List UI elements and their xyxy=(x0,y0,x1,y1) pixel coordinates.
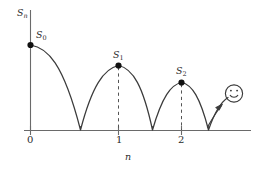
data-point-s2 xyxy=(178,79,184,85)
x-axis-label: n xyxy=(125,152,131,162)
x-tick-label-2: 2 xyxy=(178,135,184,145)
point-label-s2-sub: 2 xyxy=(183,70,187,78)
smiley-eye-left xyxy=(230,90,232,92)
point-label-s0-sub: 0 xyxy=(43,34,47,42)
point-label-s1: S1 xyxy=(113,50,124,60)
smiley-mouth xyxy=(230,95,238,97)
series-curve xyxy=(31,45,229,130)
y-axis-label-sub: n xyxy=(24,12,28,20)
smiley-face xyxy=(225,85,242,102)
smiley-eye-right xyxy=(236,90,238,92)
point-label-s1-base: S xyxy=(113,49,120,60)
smiley-face-outline xyxy=(225,85,242,102)
point-label-s2-base: S xyxy=(176,65,183,76)
data-point-s1 xyxy=(115,62,121,68)
plot-canvas xyxy=(0,0,257,172)
point-label-s0-base: S xyxy=(36,29,43,40)
y-axis-label-base: S xyxy=(17,7,24,18)
y-axis-label: Sn xyxy=(17,8,28,18)
point-label-s1-sub: 1 xyxy=(120,54,124,62)
data-point-s0 xyxy=(27,42,33,48)
figure-container: Sn n S0 S1 S2 0 1 2 xyxy=(0,0,257,172)
x-tick-label-1: 1 xyxy=(116,135,122,145)
point-label-s2: S2 xyxy=(176,66,187,76)
x-tick-label-0: 0 xyxy=(27,135,33,145)
point-label-s0: S0 xyxy=(36,30,47,40)
arrow-to-smiley-head xyxy=(216,104,223,110)
